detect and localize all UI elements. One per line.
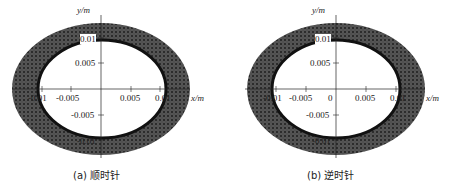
chart-panel-counterclockwise: y/m x/m 0.01 0.005 -0.005 -0.01 -0.01 -0… <box>225 0 449 189</box>
y-tick-label: -0.005 <box>306 110 329 120</box>
x-axis-title: x/m <box>191 93 204 103</box>
y-axis-title: y/m <box>312 5 325 15</box>
trajectory-plot <box>225 0 449 189</box>
y-tick-label: 0.01 <box>80 34 96 44</box>
x-tick-label: -0.01 <box>263 93 282 103</box>
y-tick-label: -0.01 <box>312 136 331 146</box>
x-tick-label: 0.01 <box>155 93 171 103</box>
y-tick-label: 0.005 <box>310 58 330 68</box>
figure-caption: (b) 逆时针 <box>307 167 354 182</box>
x-tick-label: 0.005 <box>120 93 140 103</box>
y-axis-title: y/m <box>77 5 90 15</box>
figure-caption: (a) 顺时针 <box>73 167 120 182</box>
y-tick-label: -0.01 <box>77 136 96 146</box>
chart-panel-clockwise: y/m x/m 0.01 0.005 -0.005 -0.01 -0.01 -0… <box>0 0 224 189</box>
x-tick-label: -0.005 <box>289 93 312 103</box>
x-axis-title: x/m <box>426 93 439 103</box>
y-tick-label: 0.005 <box>75 58 95 68</box>
x-tick-label: 0.01 <box>390 93 406 103</box>
y-tick-label: 0.01 <box>315 34 331 44</box>
y-tick-label: -0.005 <box>71 110 94 120</box>
x-tick-label: 0 <box>328 93 333 103</box>
x-tick-label: -0.005 <box>56 93 79 103</box>
x-tick-label: 0.005 <box>355 93 375 103</box>
x-tick-label: -0.01 <box>28 93 47 103</box>
